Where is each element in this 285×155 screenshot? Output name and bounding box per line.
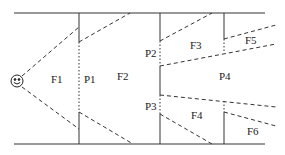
frustum-f3-upper bbox=[160, 13, 212, 41]
region-label-f4: F4 bbox=[191, 110, 203, 121]
frustum-f1-upper bbox=[22, 27, 79, 76]
region-label-f5: F5 bbox=[245, 35, 257, 46]
frustum-f2-upper bbox=[79, 13, 130, 42]
diagram-lines bbox=[0, 0, 285, 155]
portal-label-p3: P3 bbox=[145, 101, 157, 112]
region-label-f3: F3 bbox=[190, 40, 202, 51]
portal-label-p4: P4 bbox=[219, 71, 231, 82]
portal-label-p2: P2 bbox=[145, 48, 157, 59]
frustum-f4-lower bbox=[160, 114, 212, 144]
region-label-f2: F2 bbox=[117, 71, 129, 82]
frustum-portal-diagram: F1 P1 F2 P2 F3 F5 P4 P3 F4 F6 bbox=[0, 0, 285, 155]
frustum-f1-lower bbox=[22, 87, 79, 129]
smiley-face-icon bbox=[11, 75, 23, 87]
region-label-f1: F1 bbox=[51, 74, 63, 85]
frustum-p4-upper bbox=[160, 44, 276, 66]
frustum-p4-lower bbox=[160, 95, 276, 107]
region-label-f6: F6 bbox=[247, 126, 259, 137]
frustum-f6-lower bbox=[224, 112, 276, 126]
frustum-f2-lower bbox=[79, 112, 133, 144]
portal-label-p1: P1 bbox=[84, 74, 96, 85]
